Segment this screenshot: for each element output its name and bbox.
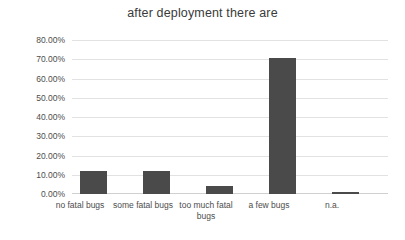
gridline-10 <box>72 175 388 176</box>
gridline-80 <box>72 40 388 41</box>
y-axis-tick-label-70: 70.00% <box>5 55 65 64</box>
bar-no-fatal-bugs[interactable] <box>80 171 107 194</box>
y-axis-tick-label-60: 60.00% <box>5 74 65 83</box>
y-axis-tick-label-50: 50.00% <box>5 94 65 103</box>
bar-na[interactable] <box>332 192 359 194</box>
gridline-20 <box>72 156 388 157</box>
gridline-50 <box>72 98 388 99</box>
y-axis-tick-label-80: 80.00% <box>5 36 65 45</box>
bar-too-much-fatal-bugs[interactable] <box>206 186 233 194</box>
bar-some-fatal-bugs[interactable] <box>143 171 170 194</box>
bar-a-few-bugs[interactable] <box>269 58 296 194</box>
y-axis-tick-label-30: 30.00% <box>5 132 65 141</box>
x-axis-label-na: n.a. <box>295 200 369 211</box>
plot-area <box>72 40 388 194</box>
gridline-40 <box>72 117 388 118</box>
chart-title: after deployment there are <box>0 6 405 20</box>
y-axis-tick-label-0: 0.00% <box>5 190 65 199</box>
y-axis-tick-label-10: 10.00% <box>5 171 65 180</box>
gridline-60 <box>72 79 388 80</box>
gridline-30 <box>72 136 388 137</box>
gridline-70 <box>72 59 388 60</box>
y-axis-tick-label-20: 20.00% <box>5 151 65 160</box>
bar-chart: after deployment there are 80.00% 70.00%… <box>0 0 405 240</box>
y-axis-tick-label-40: 40.00% <box>5 113 65 122</box>
